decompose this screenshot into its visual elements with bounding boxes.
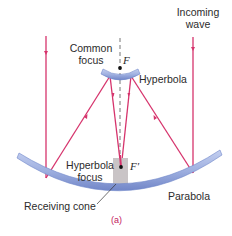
hyperbola-focus-line1: Hyperbola [64, 159, 116, 171]
hyperbola-label: Hyperbola [139, 73, 187, 85]
parabola-label: Parabola [168, 190, 210, 202]
common-focus-line2: focus [66, 54, 116, 66]
hyperbola-focus-label: Hyperbola focus [64, 159, 116, 183]
hyperbola-focus-line2: focus [64, 171, 116, 183]
common-focus-label: Common focus [66, 42, 116, 66]
secondary-ray-right [122, 76, 131, 160]
focus-f-prime-dot [119, 165, 123, 169]
focus-f-dot [118, 66, 122, 70]
focus-f-prime-label: F′ [130, 160, 139, 172]
incoming-wave-label: Incoming wave [170, 6, 226, 30]
reflected-ray-right [131, 76, 193, 173]
receiving-cone-label: Receiving cone [24, 200, 96, 212]
incoming-wave-line2: wave [170, 18, 226, 30]
secondary-ray-left [110, 76, 120, 160]
incoming-wave-line1: Incoming [170, 6, 226, 18]
arrowhead-icon [44, 51, 48, 55]
arrowhead-icon [191, 47, 195, 51]
figure-caption: (a) [111, 214, 122, 226]
focus-f-label: F [123, 54, 130, 66]
hyperbola-mirror [101, 69, 140, 80]
common-focus-line1: Common [66, 42, 116, 54]
